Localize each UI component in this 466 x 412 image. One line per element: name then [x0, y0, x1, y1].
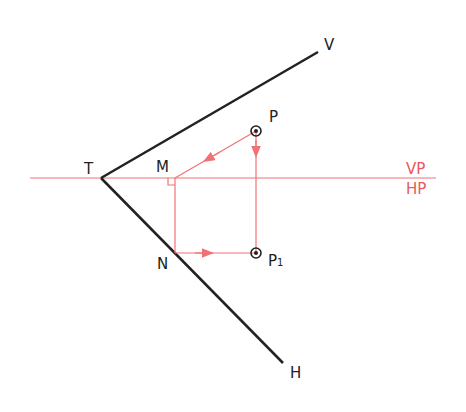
label-t: T [84, 162, 93, 177]
label-p: P [269, 110, 278, 125]
label-p1-main: P [268, 252, 277, 270]
diagram-svg [0, 0, 466, 412]
label-hp: HP [406, 182, 426, 197]
vertical-trace-line [101, 52, 318, 178]
diagram-canvas: T M N P P1 V H VP HP [0, 0, 466, 412]
label-p1-subscript: 1 [277, 257, 283, 268]
label-p1: P1 [268, 254, 283, 269]
label-vp: VP [406, 162, 425, 177]
label-n: N [157, 257, 168, 272]
right-angle-mark [168, 178, 175, 185]
p-to-m-arrow [208, 152, 220, 159]
label-v: V [324, 38, 334, 53]
label-m: M [156, 160, 169, 175]
label-h: H [290, 366, 301, 381]
